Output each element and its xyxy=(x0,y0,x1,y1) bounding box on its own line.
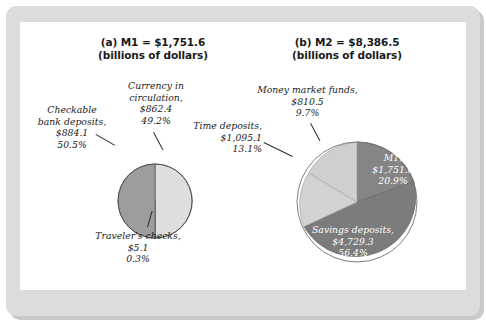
leader-line-currency xyxy=(153,132,163,150)
leader-line-time-deposits xyxy=(264,142,293,157)
chart-b-title-line1: (b) M2 = $8,386.5 xyxy=(242,36,452,49)
chart-b-title-line2: (billions of dollars) xyxy=(242,49,452,62)
label-savings-deposits: Savings deposits, $4,729.3 56.4% xyxy=(288,224,418,259)
pie-slice-currency-in-circulation xyxy=(155,164,192,238)
label-line: Traveler's checks, xyxy=(72,230,204,242)
chart-a-title: (a) M1 = $1,751.6 (billions of dollars) xyxy=(58,36,248,62)
chart-b-title: (b) M2 = $8,386.5 (billions of dollars) xyxy=(242,36,452,62)
figure-root: (a) M1 = $1,751.6 (billions of dollars) … xyxy=(0,0,486,327)
figure-panel: (a) M1 = $1,751.6 (billions of dollars) … xyxy=(20,22,466,290)
label-line: $1,095.1 xyxy=(170,132,262,144)
label-travelers-checks: Traveler's checks, $5.1 0.3% xyxy=(72,230,204,265)
pie-slice-checkable-bank-deposits xyxy=(118,164,155,238)
label-line: circulation, xyxy=(110,92,202,104)
label-line: $4,729.3 xyxy=(288,236,418,248)
leader-line-money-market xyxy=(310,123,320,141)
label-line: Time deposits, xyxy=(170,120,262,132)
label-line: $862.4 xyxy=(110,103,202,115)
label-line: Currency in xyxy=(110,80,202,92)
label-line: Checkable xyxy=(28,104,116,116)
label-line: M1, xyxy=(355,152,431,164)
label-line: 50.5% xyxy=(28,139,116,151)
label-line: bank deposits, xyxy=(28,116,116,128)
label-time-deposits: Time deposits, $1,095.1 13.1% xyxy=(170,120,262,155)
label-line: 13.1% xyxy=(170,143,262,155)
label-line: $810.5 xyxy=(235,96,380,108)
chart-a-title-line2: (billions of dollars) xyxy=(58,49,248,62)
pie-chart-m1 xyxy=(115,161,195,241)
label-line: Money market funds, xyxy=(235,84,380,96)
label-line: $5.1 xyxy=(72,242,204,254)
label-line: 9.7% xyxy=(235,107,380,119)
label-line: 56.4% xyxy=(288,247,418,259)
label-line: 20.9% xyxy=(355,175,431,187)
label-line: $1,751.6 xyxy=(355,164,431,176)
label-money-market-funds: Money market funds, $810.5 9.7% xyxy=(235,84,380,119)
chart-a-title-line1: (a) M1 = $1,751.6 xyxy=(58,36,248,49)
label-line: Savings deposits, xyxy=(288,224,418,236)
label-line: 0.3% xyxy=(72,253,204,265)
label-m1-slice: M1, $1,751.6 20.9% xyxy=(355,152,431,187)
label-checkable-bank-deposits: Checkable bank deposits, $884.1 50.5% xyxy=(28,104,116,150)
